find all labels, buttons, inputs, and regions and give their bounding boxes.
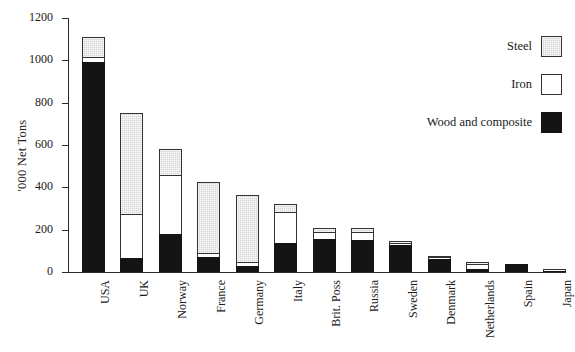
legend-item: Wood and composite bbox=[327, 112, 562, 133]
legend-label: Steel bbox=[507, 39, 532, 54]
bar-segment-wood bbox=[505, 264, 528, 272]
bar-segment-steel bbox=[274, 204, 297, 212]
legend-item: Steel bbox=[327, 36, 562, 57]
bar-segment-wood bbox=[274, 243, 297, 272]
x-axis-label: Japan bbox=[560, 280, 575, 307]
x-axis-label: Sweden bbox=[406, 280, 421, 318]
x-axis-label: Germany bbox=[252, 280, 267, 325]
steel-swatch bbox=[541, 36, 562, 57]
bar-segment-wood bbox=[389, 245, 412, 272]
bar-stack bbox=[389, 241, 412, 272]
y-tick: 0 bbox=[62, 272, 68, 273]
bar-stack bbox=[236, 195, 259, 272]
bar-segment-iron bbox=[120, 214, 143, 258]
y-tick: 200 bbox=[62, 230, 68, 231]
x-axis-label: France bbox=[214, 280, 229, 313]
bar-segment-wood bbox=[236, 266, 259, 272]
x-axis-label: USA bbox=[98, 280, 113, 304]
x-axis-label: Spain bbox=[521, 280, 536, 307]
y-axis-line bbox=[68, 18, 69, 272]
legend-label: Iron bbox=[511, 77, 532, 92]
y-tick-label: 800 bbox=[35, 95, 53, 110]
legend-label: Wood and composite bbox=[427, 115, 532, 130]
x-axis-label: UK bbox=[137, 280, 152, 297]
x-axis-label: Brit. Poss bbox=[329, 280, 344, 327]
bar-segment-wood bbox=[351, 240, 374, 272]
bar-stack bbox=[197, 182, 220, 272]
bar-segment-steel bbox=[236, 195, 259, 262]
y-tick: 400 bbox=[62, 187, 68, 188]
y-tick: 1200 bbox=[62, 18, 68, 19]
bar-segment-wood bbox=[197, 257, 220, 272]
y-tick: 1000 bbox=[62, 60, 68, 61]
iron-swatch bbox=[541, 74, 562, 95]
bar-segment-wood bbox=[543, 271, 566, 273]
x-axis-label: Norway bbox=[175, 280, 190, 319]
y-tick-label: 200 bbox=[35, 222, 53, 237]
bar-segment-steel bbox=[197, 182, 220, 253]
bar-stack bbox=[120, 113, 143, 272]
y-tick: 800 bbox=[62, 103, 68, 104]
x-axis-line bbox=[68, 272, 566, 273]
bar-stack bbox=[466, 262, 489, 272]
bar-segment-steel bbox=[159, 149, 182, 175]
bar-segment-iron bbox=[159, 175, 182, 234]
y-axis-title: '000 Net Tons bbox=[15, 91, 30, 221]
bar-stack bbox=[428, 256, 451, 272]
bar-segment-iron bbox=[274, 212, 297, 243]
y-tick-label: 0 bbox=[47, 264, 53, 279]
y-tick-label: 600 bbox=[35, 137, 53, 152]
bar-segment-iron bbox=[313, 232, 336, 239]
bar-segment-wood bbox=[82, 62, 105, 272]
bar-segment-steel bbox=[82, 37, 105, 57]
wood-swatch bbox=[541, 112, 562, 133]
x-axis-label: Netherlands bbox=[483, 280, 498, 338]
bar-stack bbox=[159, 149, 182, 272]
bar-segment-wood bbox=[466, 269, 489, 272]
y-tick: 600 bbox=[62, 145, 68, 146]
y-tick-label: 400 bbox=[35, 179, 53, 194]
bar-segment-steel bbox=[120, 113, 143, 214]
bar-stack bbox=[82, 37, 105, 272]
chart-legend: SteelIronWood and composite bbox=[327, 36, 562, 150]
bar-segment-wood bbox=[120, 258, 143, 272]
x-axis-label: Italy bbox=[291, 280, 306, 302]
x-axis-label: Russia bbox=[367, 280, 382, 312]
bar-segment-wood bbox=[428, 259, 451, 272]
bar-stack bbox=[351, 228, 374, 272]
legend-item: Iron bbox=[327, 74, 562, 95]
y-tick-label: 1000 bbox=[29, 52, 53, 67]
bar-stack bbox=[543, 269, 566, 272]
x-axis-label: Denmark bbox=[444, 280, 459, 325]
bar-stack bbox=[274, 204, 297, 272]
bar-stack bbox=[505, 264, 528, 272]
bar-segment-wood bbox=[313, 239, 336, 272]
bar-segment-iron bbox=[351, 232, 374, 240]
bar-stack bbox=[313, 228, 336, 272]
y-tick-label: 1200 bbox=[29, 10, 53, 25]
bar-segment-wood bbox=[159, 234, 182, 272]
